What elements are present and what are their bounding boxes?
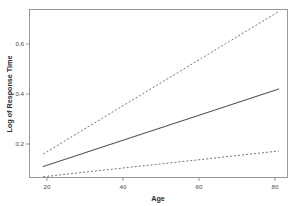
regression-line-chart: 0.6 0.4 0.2 Log of Response Time 20 40 6…: [0, 0, 302, 206]
y-tick-label-1: 0.2: [15, 140, 24, 147]
x-tick-label-3: 60: [196, 183, 203, 190]
chart-background: [0, 0, 302, 206]
y-tick-label-2: 0.4: [15, 90, 24, 97]
x-tick-label-1: 20: [44, 183, 51, 190]
x-axis-title: Age: [151, 194, 165, 203]
y-axis-title: Log of Response Time: [5, 56, 14, 133]
chart-screenshot: 0.6 0.4 0.2 Log of Response Time 20 40 6…: [0, 0, 302, 206]
x-tick-label-4: 80: [272, 183, 279, 190]
y-tick-label-3: 0.6: [15, 40, 24, 47]
x-tick-label-2: 40: [120, 183, 127, 190]
